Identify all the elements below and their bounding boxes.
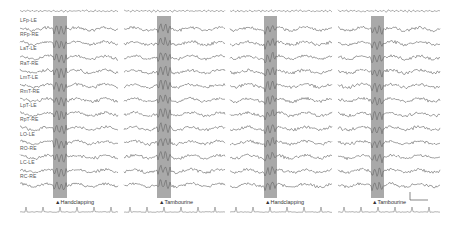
channel-trace [230, 26, 332, 35]
channel-trace [230, 137, 332, 147]
channel-label: RO-RE [20, 145, 37, 151]
channel-label: LmT-LE [20, 74, 38, 80]
channel-trace [230, 182, 332, 190]
channel-trace [124, 66, 225, 76]
channel-label: RpT-RE [20, 116, 38, 122]
channel-trace [338, 168, 440, 177]
channel-trace [124, 37, 225, 46]
event-label: ▲Tambourine [159, 199, 193, 205]
ecg-trace [338, 207, 440, 212]
event-band [371, 16, 384, 198]
channel-trace [230, 67, 332, 75]
channel-trace [338, 40, 440, 49]
channel-trace [20, 182, 118, 190]
channel-label: LaT-LE [20, 45, 37, 51]
channel-trace [338, 126, 440, 134]
channel-trace [230, 167, 332, 176]
marker-trace [20, 10, 118, 12]
channel-label: RFp-RE [20, 31, 39, 37]
channel-trace [124, 139, 225, 146]
channel-label: LC-LE [20, 159, 35, 165]
marker-trace [124, 10, 225, 12]
channel-trace [230, 81, 332, 92]
channel-label: RmT-RE [20, 88, 40, 94]
scale-bar [410, 192, 428, 200]
channel-trace [124, 24, 225, 33]
marker-trace [338, 10, 440, 12]
channel-trace [230, 125, 332, 134]
channel-trace [124, 152, 225, 161]
channel-label: LpT-LE [20, 102, 37, 108]
channel-trace [124, 80, 225, 89]
channel-trace [124, 180, 225, 189]
event-label: ▲Tambourine [372, 199, 406, 205]
channel-trace [124, 108, 225, 118]
channel-label: LFp-LE [20, 17, 37, 23]
channel-trace [124, 165, 225, 175]
channel-trace [338, 182, 440, 190]
channel-trace [230, 110, 332, 120]
ecg-trace [124, 207, 225, 212]
channel-trace [338, 97, 440, 105]
channel-label: RC-RE [20, 173, 36, 179]
channel-label: LO-LE [20, 131, 35, 137]
event-band [264, 16, 277, 198]
event-label: ▲Handclapping [265, 199, 304, 205]
channel-trace [124, 95, 225, 103]
ecg-trace [230, 207, 332, 212]
eeg-figure [0, 0, 453, 226]
channel-trace [338, 83, 440, 92]
channel-trace [338, 140, 440, 148]
channel-trace [124, 123, 225, 133]
ecg-trace [20, 207, 118, 212]
channel-trace [338, 112, 440, 120]
channel-trace [338, 26, 440, 35]
channel-trace [230, 152, 332, 161]
channel-trace [338, 55, 440, 63]
marker-trace [230, 10, 332, 12]
channel-label: RaT-RE [20, 60, 38, 66]
channel-trace [230, 52, 332, 63]
event-label: ▲Handclapping [55, 199, 94, 205]
channel-trace [230, 39, 332, 50]
event-band [53, 16, 67, 198]
channel-trace [338, 69, 440, 77]
channel-trace [230, 96, 332, 105]
channel-trace [124, 53, 225, 62]
channel-trace [338, 154, 440, 163]
